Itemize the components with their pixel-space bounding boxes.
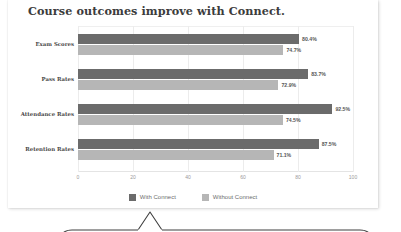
x-tick-label: 100: [349, 174, 357, 180]
callout-bubble-shape: [0, 206, 401, 232]
bar-group: 87.5%71.1%: [78, 139, 353, 163]
bar-without-connect[interactable]: [78, 45, 283, 55]
bar-without-connect[interactable]: [78, 150, 274, 160]
bar-group: 83.7%72.9%: [78, 69, 353, 93]
legend-item[interactable]: With Connect: [129, 194, 176, 201]
bar-without-connect[interactable]: [78, 115, 283, 125]
bar-with-connect[interactable]: [78, 139, 319, 149]
legend-label: Without Connect: [213, 194, 257, 200]
category-label: Pass Rates: [42, 74, 74, 84]
category-label: Attendance Rates: [21, 109, 74, 119]
category-axis: Exam ScoresPass RatesAttendance RatesRet…: [8, 26, 74, 172]
bar-with-connect[interactable]: [78, 69, 308, 79]
plot-area: 80.4%74.7%83.7%72.9%92.5%74.5%87.5%71.1%: [78, 26, 353, 172]
bar-with-connect[interactable]: [78, 34, 299, 44]
legend-swatch-icon: [202, 194, 209, 201]
bar-without-connect[interactable]: [78, 80, 278, 90]
category-label: Exam Scores: [36, 39, 74, 49]
bar-group: 92.5%74.5%: [78, 104, 353, 128]
category-label: Retention Rates: [25, 144, 74, 154]
legend-label: With Connect: [140, 194, 176, 200]
x-tick-label: 40: [185, 174, 191, 180]
x-tick-label: 60: [240, 174, 246, 180]
callout-bubble: [0, 206, 401, 232]
legend-item[interactable]: Without Connect: [202, 194, 257, 201]
bar-value-label: 92.5%: [335, 104, 350, 114]
plot-bottom-rule: [78, 171, 353, 172]
bar-value-label: 72.9%: [281, 80, 296, 90]
chart-legend: With ConnectWithout Connect: [8, 190, 378, 204]
x-tick-label: 0: [77, 174, 80, 180]
bar-value-label: 74.7%: [286, 45, 301, 55]
legend-swatch-icon: [129, 194, 136, 201]
chart-card: Course outcomes improve with Connect. Ex…: [8, 0, 378, 208]
bar-group: 80.4%74.7%: [78, 34, 353, 58]
bar-value-label: 80.4%: [302, 34, 317, 44]
bar-chart: Exam ScoresPass RatesAttendance RatesRet…: [8, 0, 378, 208]
bar-value-label: 83.7%: [311, 69, 326, 79]
bar-value-label: 87.5%: [322, 139, 337, 149]
bar-value-label: 71.1%: [277, 150, 292, 160]
x-tick-label: 20: [130, 174, 136, 180]
bar-value-label: 74.5%: [286, 115, 301, 125]
plot-top-rule: [78, 26, 353, 27]
x-tick-label: 80: [295, 174, 301, 180]
value-axis: 020406080100: [78, 174, 353, 186]
bar-with-connect[interactable]: [78, 104, 332, 114]
grid-line: [353, 26, 354, 172]
chart-card-inner: Course outcomes improve with Connect. Ex…: [8, 0, 378, 208]
